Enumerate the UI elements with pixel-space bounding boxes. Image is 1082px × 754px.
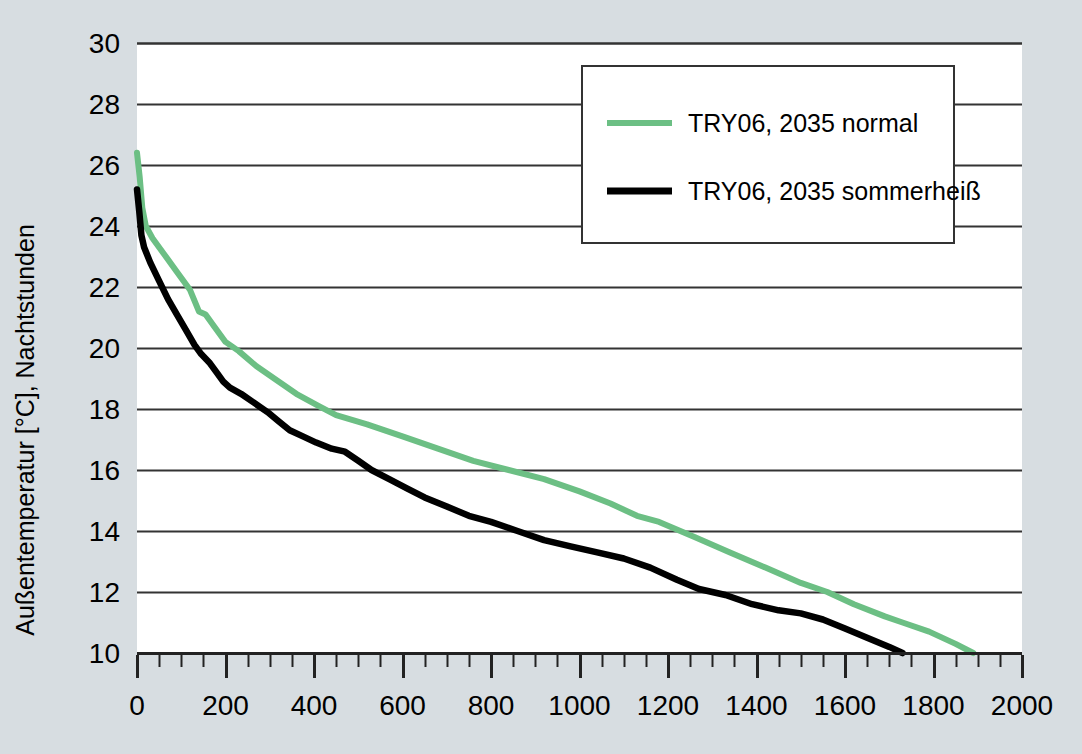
x-tick-label: 800	[468, 690, 515, 721]
x-tick-label: 1800	[902, 690, 964, 721]
y-tick-label: 20	[89, 333, 120, 364]
line-chart: 1012141618202224262830 02004006008001000…	[0, 0, 1082, 754]
y-tick-label: 16	[89, 455, 120, 486]
chart-container: 1012141618202224262830 02004006008001000…	[0, 0, 1082, 754]
x-tick-label: 600	[379, 690, 426, 721]
y-tick-label: 24	[89, 211, 120, 242]
y-tick-label: 10	[89, 638, 120, 669]
y-tick-label: 14	[89, 516, 120, 547]
legend-label-normal: TRY06, 2035 normal	[688, 109, 918, 137]
y-axis-title: Außentemperatur [°C], Nachtstunden	[11, 224, 39, 636]
chart-legend: TRY06, 2035 normal TRY06, 2035 sommerhei…	[582, 66, 981, 243]
x-tick-label: 0	[129, 690, 145, 721]
y-tick-label: 30	[89, 28, 120, 59]
y-tick-label: 26	[89, 150, 120, 181]
legend-label-sommerheiss: TRY06, 2035 sommerheiß	[688, 177, 981, 205]
x-tick-label: 400	[291, 690, 338, 721]
x-tick-label: 2000	[991, 690, 1053, 721]
y-tick-label: 18	[89, 394, 120, 425]
x-tick-label: 1600	[814, 690, 876, 721]
y-tick-label: 28	[89, 89, 120, 120]
x-tick-label: 1000	[548, 690, 610, 721]
y-tick-label: 12	[89, 577, 120, 608]
y-tick-label: 22	[89, 272, 120, 303]
x-tick-label: 200	[202, 690, 249, 721]
x-tick-label: 1200	[637, 690, 699, 721]
x-tick-label: 1400	[725, 690, 787, 721]
legend-box	[582, 66, 954, 243]
